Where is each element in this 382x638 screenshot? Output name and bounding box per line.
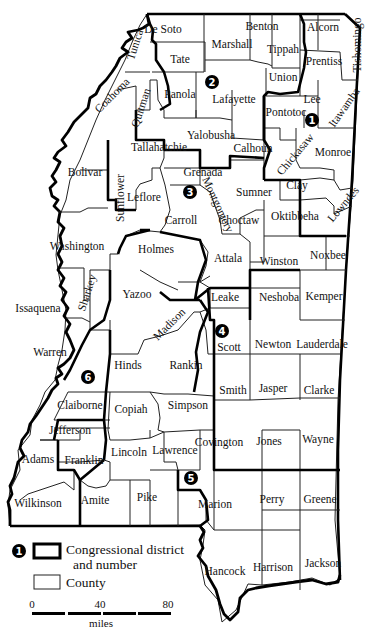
- legend-district-label-2: and number: [73, 557, 138, 572]
- district-number: 4: [219, 326, 226, 337]
- county-label-clarke: Clarke: [304, 384, 335, 396]
- county-label-grenada: Grenada: [184, 166, 223, 178]
- county-label-yazoo: Yazoo: [123, 288, 152, 300]
- county-label-clay: Clay: [286, 179, 308, 192]
- county-label-wayne: Wayne: [302, 433, 334, 446]
- county-label-winston: Winston: [260, 255, 299, 267]
- county-label-perry: Perry: [260, 493, 285, 506]
- county-label-harrison: Harrison: [253, 561, 293, 573]
- county-label-pontotoc: Pontotoc: [266, 106, 307, 118]
- district-marker-3: 3: [183, 185, 197, 199]
- county-label-benton: Benton: [245, 20, 278, 32]
- county-label-copiah: Copiah: [114, 403, 147, 416]
- county-label-panola: Panola: [164, 88, 195, 100]
- county-label-lee: Lee: [303, 93, 320, 105]
- county-label-newton: Newton: [255, 338, 292, 350]
- county-label-tate: Tate: [170, 53, 190, 65]
- county-label-bolivar: Bolivar: [68, 166, 103, 178]
- scale-tick-0: 0: [29, 598, 35, 610]
- district-number: 1: [309, 115, 316, 126]
- district-marker-5: 5: [184, 471, 198, 485]
- state-outline: [8, 14, 360, 622]
- county-label-leake: Leake: [211, 291, 239, 303]
- county-label-neshoba: Neshoba: [259, 291, 299, 303]
- legend-district-swatch: [34, 544, 60, 558]
- scale-tick-80: 80: [163, 598, 175, 610]
- county-label-smith: Smith: [219, 384, 247, 396]
- district-marker-1: 1: [305, 113, 319, 127]
- county-label-calhoun: Calhoun: [234, 142, 273, 154]
- county-label-rankin: Rankin: [169, 359, 202, 371]
- district-marker-6: 6: [81, 370, 95, 384]
- legend-district-label-1: Congressional district: [66, 542, 184, 557]
- county-label-oktibbeha: Oktibbeha: [271, 210, 319, 222]
- county-label-lawrence: Lawrence: [152, 444, 197, 456]
- district-number: 5: [188, 473, 195, 484]
- county-label-pike: Pike: [137, 491, 157, 503]
- county-label-kemper: Kemper: [305, 290, 342, 303]
- county-label-sumner: Sumner: [236, 186, 272, 198]
- county-label-claiborne: Claiborne: [57, 399, 102, 411]
- district-marker-2: 2: [205, 75, 219, 89]
- county-label-scott: Scott: [217, 341, 241, 353]
- county-label-covington: Covington: [195, 436, 244, 449]
- district-number: 3: [187, 187, 194, 198]
- county-label-washington: Washington: [50, 240, 105, 253]
- county-label-sunflower: Sunflower: [114, 174, 126, 222]
- county-label-leflore: Leflore: [127, 191, 161, 203]
- county-label-noxbee: Noxbee: [310, 249, 346, 261]
- county-label-franklin: Franklin: [65, 454, 104, 466]
- county-label-simpson: Simpson: [168, 399, 209, 412]
- county-label-greene: Greene: [303, 493, 336, 505]
- county-label-jackson: Jackson: [305, 557, 342, 569]
- legend-district-number: 1: [16, 546, 23, 557]
- district-number: 6: [85, 372, 92, 383]
- district-number: 2: [209, 77, 216, 88]
- scale-tick-40: 40: [95, 598, 107, 610]
- county-label-yalobusha: Yalobusha: [187, 129, 235, 141]
- county-label-choctaw: Choctaw: [219, 214, 261, 226]
- county-label-union: Union: [269, 71, 298, 83]
- county-label-jefferson: Jefferson: [49, 424, 91, 436]
- county-label-tippah: Tippah: [267, 43, 299, 56]
- county-label-monroe: Monroe: [315, 146, 351, 158]
- county-label-lincoln: Lincoln: [111, 446, 147, 458]
- legend-county-swatch: [34, 575, 60, 589]
- county-label-attala: Attala: [214, 252, 242, 264]
- county-label-wilkinson: Wilkinson: [14, 497, 62, 509]
- county-label-tallahatchie: Tallahatchie: [131, 141, 187, 153]
- county-label-marion: Marion: [198, 498, 232, 510]
- county-label-carroll: Carroll: [165, 214, 198, 226]
- county-label-amite: Amite: [81, 494, 110, 506]
- scale-bar: 0 40 80 miles: [29, 598, 174, 629]
- scale-unit: miles: [89, 617, 113, 629]
- legend: 1 Congressional district and number Coun…: [12, 542, 184, 590]
- county-label-prentiss: Prentiss: [306, 55, 343, 67]
- county-label-issaquena: Issaquena: [15, 302, 60, 315]
- county-label-de-soto: De Soto: [144, 23, 182, 35]
- county-label-hinds: Hinds: [114, 359, 142, 371]
- county-label-jasper: Jasper: [259, 382, 288, 395]
- county-label-adams: Adams: [22, 453, 55, 465]
- legend-county-label: County: [66, 575, 106, 590]
- county-label-marshall: Marshall: [212, 38, 253, 50]
- county-label-hancock: Hancock: [205, 565, 246, 577]
- county-label-holmes: Holmes: [138, 243, 174, 255]
- mississippi-district-map: De SotoTunicaTateMarshallBentonTippahAlc…: [0, 0, 382, 638]
- county-label-lafayette: Lafayette: [212, 93, 255, 106]
- county-label-alcorn: Alcorn: [307, 21, 339, 33]
- county-label-jones: Jones: [256, 435, 282, 447]
- county-label-lauderdale: Lauderdale: [296, 338, 348, 350]
- district-marker-4: 4: [215, 324, 229, 338]
- county-label-warren: Warren: [33, 346, 67, 358]
- county-label-tishomingo: Tishomingo: [351, 17, 364, 72]
